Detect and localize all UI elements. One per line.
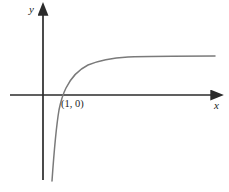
- graph-canvas: [0, 0, 229, 192]
- x-axis-label: x: [214, 100, 219, 111]
- x-intercept-label: (1, 0): [61, 99, 84, 110]
- logarithmic-curve: [52, 56, 215, 181]
- logarithmic-graph-figure: y x (1, 0): [0, 0, 229, 192]
- y-axis-label: y: [29, 4, 34, 15]
